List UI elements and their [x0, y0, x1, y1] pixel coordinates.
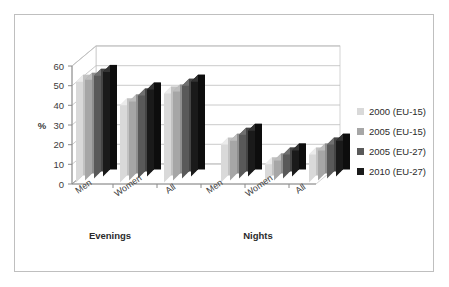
bar-nights-men-2010-eu27 [248, 124, 262, 177]
y-axis-title: % [38, 120, 47, 131]
legend-item-2005-eu27[interactable]: 2005 (EU-27) [357, 146, 426, 157]
chart-legend: 2000 (EU-15) 2005 (EU-15) 2005 (EU-27) 2… [357, 106, 426, 177]
legend-label-2000-eu15: 2000 (EU-15) [369, 106, 426, 117]
bar-chart-3d: 60 50 40 30 20 10 0 % [0, 0, 449, 287]
legend-item-2005-eu15[interactable]: 2005 (EU-15) [357, 126, 426, 137]
y-tick-30: 30 [53, 120, 64, 131]
y-tick-10: 10 [53, 159, 64, 170]
y-tick-40: 40 [53, 100, 64, 111]
y-tick-20: 20 [53, 139, 64, 150]
bar-nights-all-2010-eu27 [336, 134, 350, 177]
legend-label-2010-eu27: 2010 (EU-27) [369, 166, 426, 177]
group-label-nights: Nights [243, 230, 273, 241]
legend-item-2010-eu27[interactable]: 2010 (EU-27) [357, 166, 426, 177]
bar-evenings-all-2010-eu27 [191, 75, 205, 177]
legend-label-2005-eu27: 2005 (EU-27) [369, 146, 426, 157]
legend-item-2000-eu15[interactable]: 2000 (EU-15) [357, 106, 426, 117]
bar-evenings-men-2010-eu27 [103, 65, 117, 177]
legend-label-2005-eu15: 2005 (EU-15) [369, 126, 426, 137]
y-tick-50: 50 [53, 80, 64, 91]
legend-swatch-2005-eu15 [357, 128, 364, 135]
x-axis [72, 184, 316, 188]
legend-swatch-2000-eu15 [357, 108, 364, 115]
group-label-evenings: Evenings [89, 230, 131, 241]
y-tick-0: 0 [59, 179, 64, 190]
chart-figure: 60 50 40 30 20 10 0 % [0, 0, 449, 287]
legend-swatch-2005-eu27 [357, 148, 364, 155]
bar-group-evenings-all [164, 75, 205, 183]
bar-evenings-women-2010-eu27 [147, 83, 161, 177]
bar-group-evenings-men [76, 65, 117, 183]
y-axis [68, 66, 72, 184]
legend-swatch-2010-eu27 [357, 168, 364, 175]
y-tick-60: 60 [53, 61, 64, 72]
